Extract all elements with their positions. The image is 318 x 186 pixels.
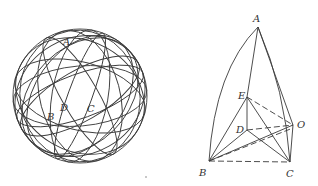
great-circle	[41, 25, 119, 167]
label-d: D	[235, 124, 244, 135]
great-circle	[46, 29, 114, 163]
label-c: C	[286, 168, 294, 179]
label-c-left: C	[87, 103, 95, 114]
label-o: O	[297, 119, 305, 130]
great-circle	[5, 15, 156, 176]
label-e: E	[237, 90, 246, 101]
great-circle	[9, 21, 150, 172]
edge-oc	[290, 125, 293, 162]
great-circle	[11, 60, 150, 131]
diagram-canvas: A D C B A E D O B C	[0, 0, 318, 186]
label-a: A	[252, 13, 260, 24]
edge-eo-dashed	[247, 97, 293, 125]
edge-bc-dashed	[209, 161, 290, 162]
label-b-left: B	[46, 111, 54, 122]
edge-dc	[247, 130, 290, 162]
label-b: B	[198, 167, 206, 178]
stray-mark	[145, 176, 147, 178]
edge-ao	[258, 27, 293, 125]
label-d-left: D	[59, 102, 68, 113]
spherical-triangle-figure: A E D O B C	[198, 13, 305, 179]
label-a-left: A	[62, 36, 70, 47]
sphere-figure: A D C B	[0, 12, 167, 179]
